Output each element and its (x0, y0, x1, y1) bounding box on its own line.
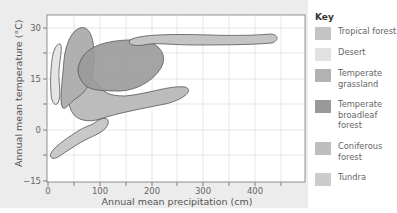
swatch-temperate-grassland (315, 69, 331, 82)
swatch-desert (315, 48, 331, 61)
region-tropical-forest (129, 34, 277, 45)
swatch-tundra (315, 173, 331, 186)
y-tick-15: 15 (30, 74, 41, 84)
legend-title: Key (315, 12, 397, 22)
y-axis-label: Annual mean temperature (°C) (13, 27, 27, 167)
x-tick-400: 400 (247, 186, 263, 196)
swatch-temperate-broadleaf-forest (315, 100, 331, 113)
y-tick-minus15: −15 (23, 176, 41, 186)
x-axis-label: Annual mean precipitation (cm) (48, 196, 306, 207)
legend-label: Temperate grassland (338, 68, 390, 89)
x-tick-300: 300 (195, 186, 211, 196)
legend-item-tundra: Tundra (315, 172, 397, 192)
legend-item-temperate-grassland: Temperate grassland (315, 68, 397, 99)
x-tick-100: 100 (92, 186, 108, 196)
swatch-coniferous-forest (315, 142, 331, 155)
swatch-tropical-forest (315, 27, 331, 40)
y-tick-0: 0 (36, 125, 41, 135)
legend-label: Coniferous forest (338, 141, 390, 162)
legend: Key Tropical forest Desert Temperate gra… (315, 12, 397, 192)
legend-label: Temperate broadleaf forest (338, 99, 390, 131)
legend-item-temperate-broadleaf-forest: Temperate broadleaf forest (315, 99, 397, 141)
legend-item-desert: Desert (315, 47, 397, 68)
x-tick-200: 200 (144, 186, 160, 196)
legend-label: Desert (338, 47, 366, 58)
legend-item-coniferous-forest: Coniferous forest (315, 141, 397, 172)
x-tick-0: 0 (45, 186, 50, 196)
legend-label: Tundra (338, 172, 366, 183)
y-tick-30: 30 (30, 23, 41, 33)
legend-item-tropical-forest: Tropical forest (315, 26, 397, 47)
legend-label: Tropical forest (338, 26, 396, 37)
plot-area: 30 15 0 −15 0 100 200 300 400 (0, 0, 310, 200)
